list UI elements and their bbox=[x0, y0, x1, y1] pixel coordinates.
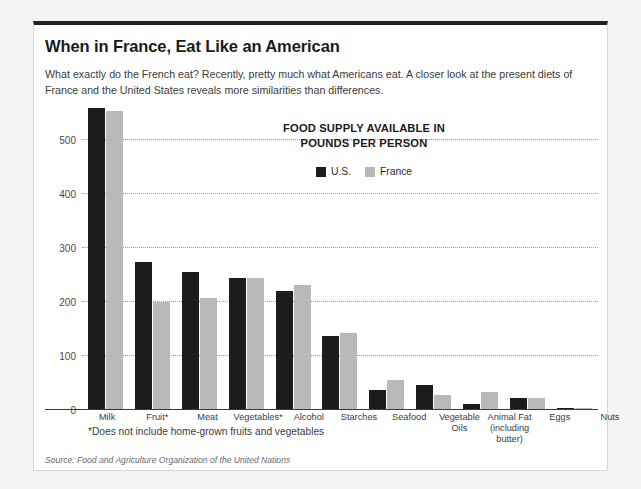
chart-title-line-1: FOOD SUPPLY AVAILABLE IN bbox=[249, 121, 479, 136]
chart-title: FOOD SUPPLY AVAILABLE IN POUNDS PER PERS… bbox=[249, 121, 479, 150]
y-axis-tick-label: 200 bbox=[59, 297, 76, 308]
legend-label: U.S. bbox=[331, 166, 351, 177]
chart-card: When in France, Eat Like an American Wha… bbox=[33, 21, 608, 471]
y-axis-tick-label: 0 bbox=[70, 405, 76, 416]
bar-us[interactable] bbox=[229, 278, 246, 410]
bar-france[interactable] bbox=[340, 333, 357, 410]
y-axis-tick-label: 500 bbox=[59, 135, 76, 146]
bar-group bbox=[129, 105, 176, 410]
y-axis-tick-label: 400 bbox=[59, 189, 76, 200]
bar-us[interactable] bbox=[276, 291, 293, 410]
legend-item-us[interactable]: U.S. bbox=[316, 166, 351, 177]
legend-item-france[interactable]: France bbox=[365, 166, 412, 177]
bar-france[interactable] bbox=[481, 392, 498, 410]
y-axis-tick-label: 100 bbox=[59, 351, 76, 362]
bar-group bbox=[176, 105, 223, 410]
bar-group bbox=[317, 105, 364, 410]
bar-france[interactable] bbox=[247, 278, 264, 410]
bar-group bbox=[270, 105, 317, 410]
x-axis-tick-label: Starches bbox=[334, 412, 384, 445]
bar-france[interactable] bbox=[294, 285, 311, 410]
bar-france[interactable] bbox=[153, 302, 170, 410]
bar-france[interactable] bbox=[200, 298, 217, 410]
bar-chart-plot: 0100200300400500 bbox=[45, 105, 598, 410]
bar-france[interactable] bbox=[434, 395, 451, 410]
chart-axis-area: 0100200300400500 bbox=[82, 105, 598, 410]
bar-group bbox=[504, 105, 551, 410]
x-axis-tick-label: Nuts bbox=[585, 412, 635, 445]
chart-source: Source: Food and Agriculture Organizatio… bbox=[45, 455, 290, 465]
x-axis-tick-label: Seafood bbox=[384, 412, 434, 445]
bar-group bbox=[363, 105, 410, 410]
bar-france[interactable] bbox=[387, 380, 404, 410]
bar-group bbox=[223, 105, 270, 410]
legend-label: France bbox=[380, 166, 412, 177]
x-axis-tick-label: Animal Fat(includingbutter) bbox=[484, 412, 534, 445]
bar-us[interactable] bbox=[135, 262, 152, 410]
bar-series-container bbox=[82, 105, 598, 410]
bar-group bbox=[551, 105, 598, 410]
x-axis-line bbox=[45, 409, 598, 410]
x-axis-tick-label: Eggs bbox=[535, 412, 585, 445]
bar-group bbox=[410, 105, 457, 410]
screenshot-root: When in France, Eat Like an American Wha… bbox=[0, 0, 641, 489]
bar-group bbox=[457, 105, 504, 410]
x-axis-tick-label: VegetableOils bbox=[434, 412, 484, 445]
legend-swatch-icon bbox=[316, 167, 326, 177]
bar-us[interactable] bbox=[416, 385, 433, 410]
bar-us[interactable] bbox=[369, 390, 386, 411]
bar-us[interactable] bbox=[182, 272, 199, 410]
legend-swatch-icon bbox=[365, 167, 375, 177]
page-title: When in France, Eat Like an American bbox=[45, 37, 340, 56]
bar-france[interactable] bbox=[106, 111, 123, 410]
y-axis-tick-label: 300 bbox=[59, 243, 76, 254]
bar-group bbox=[82, 105, 129, 410]
chart-title-line-2: POUNDS PER PERSON bbox=[249, 136, 479, 151]
bar-us[interactable] bbox=[322, 336, 339, 410]
chart-legend: U.S.France bbox=[249, 166, 479, 177]
bar-us[interactable] bbox=[88, 108, 105, 410]
chart-footnote: *Does not include home-grown fruits and … bbox=[88, 426, 324, 437]
chart-deck: What exactly do the French eat? Recently… bbox=[45, 67, 585, 98]
